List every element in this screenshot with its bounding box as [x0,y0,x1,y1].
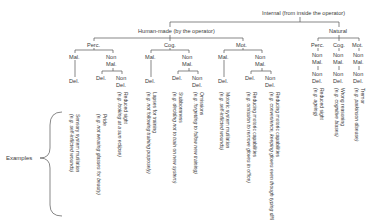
cog-nonmal-nondel: Del. [192,82,202,88]
perc-nonmal-non: Non [116,75,126,81]
cog-label: Cog. [164,42,176,48]
mot-nonmal-non: Non [265,75,275,81]
nat-mot-non: Non [353,52,363,58]
nat-mot-del: Del. [353,78,363,84]
perc-nonmal-del: Del. [96,75,106,81]
cog-nonmal-non: Non [192,75,202,81]
nat-perc-non-del: Non [312,71,322,77]
mot-nonmal-del: Del. [245,75,255,81]
nat-mot-non-del: Non [353,71,363,77]
example-stubbornness: Stubbornness(e.g. deciding not to train … [172,92,183,183]
mot-non-mal: Mal. [255,61,266,67]
nat-mot-mal: Mal. [353,59,364,65]
example-reduced-sight-ageing: Reduced sight(e.g. ageing) [313,88,324,120]
perc-non: Non [106,54,116,60]
example-reduced-sight: Reduced sight(e.g. looking at a sun ecli… [117,92,128,157]
example-pride: Pride(e.g. not wearing glasses for beaut… [96,114,107,195]
nat-mot-label: Mot. [352,42,363,48]
perc-label: Perc. [87,42,100,48]
cog-non: Non [182,54,192,60]
perc-mal-del: Del. [69,78,79,84]
perc-non-mal: Mal. [106,61,117,67]
nat-perc-non: Non [312,52,322,58]
mot-non: Non [255,54,265,60]
mot-nonmal-nondel: Del. [265,82,275,88]
example-reducing-motoric-1: Reducing motoric capabilities(e.g. omiss… [246,92,257,183]
nat-cog-mal: Mal. [333,59,344,65]
perc-mal: Mal. [69,54,80,60]
mot-mal: Mal. [218,54,229,60]
example-motoric-mutilation: Motoric system mutilation(e.g. self-infl… [219,92,230,150]
example-tremor: Tremor(e.g. parkinson disease) [354,88,365,141]
nat-perc-del: Del. [312,78,322,84]
mot-mal-del: Del. [218,78,228,84]
example-reducing-motoric-2: Reducing motoric capabilities(e.g. conve… [269,92,280,220]
cog-mal-del: Del. [145,78,155,84]
cog-mal: Mal. [145,54,156,60]
nat-cog-del: Del. [333,78,343,84]
examples-label: Examples [6,155,32,161]
human-made-label: Human-made (by the operator) [138,28,215,34]
mot-label: Mot. [236,42,247,48]
example-lapses-training: Lapses for training(e.g. not following t… [146,92,157,174]
perc-nonmal-nondel: Del. [116,82,126,88]
example-sensory-mutilation: Sensory system mutilation(e.g. self-infl… [69,114,80,172]
example-omissions: Omissions(e.g. forgetting to follow new … [193,92,204,174]
natural-label: Natural [329,28,347,34]
nat-perc-mal: Mal. [312,59,323,65]
nat-cog-label: Cog. [333,42,345,48]
nat-cog-non: Non [333,52,343,58]
cog-non-mal: Mal. [182,61,193,67]
nat-perc-label: Perc. [311,42,324,48]
root-label: Internal (from inside the operator) [262,10,345,16]
cog-nonmal-del: Del. [172,75,182,81]
nat-cog-non-del: Non [333,71,343,77]
example-wrong-reasoning: Wrong reasoning(e.g. cognitive biases) [334,88,345,137]
